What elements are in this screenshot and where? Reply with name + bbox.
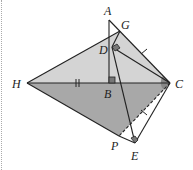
tick-gc bbox=[141, 49, 147, 54]
label-c: C bbox=[175, 77, 184, 91]
label-e: E bbox=[130, 149, 139, 163]
label-g: G bbox=[121, 18, 130, 32]
label-b: B bbox=[104, 87, 112, 101]
right-angle-mark-b bbox=[109, 77, 115, 83]
label-p: P bbox=[110, 139, 119, 153]
shaded-triangle-hgc bbox=[27, 31, 170, 83]
shaded-triangle-hcp bbox=[27, 83, 170, 136]
label-h: H bbox=[11, 77, 22, 91]
label-d: D bbox=[98, 43, 108, 57]
label-a: A bbox=[103, 4, 112, 18]
geometry-diagram: A G D H B C P E bbox=[0, 0, 193, 170]
